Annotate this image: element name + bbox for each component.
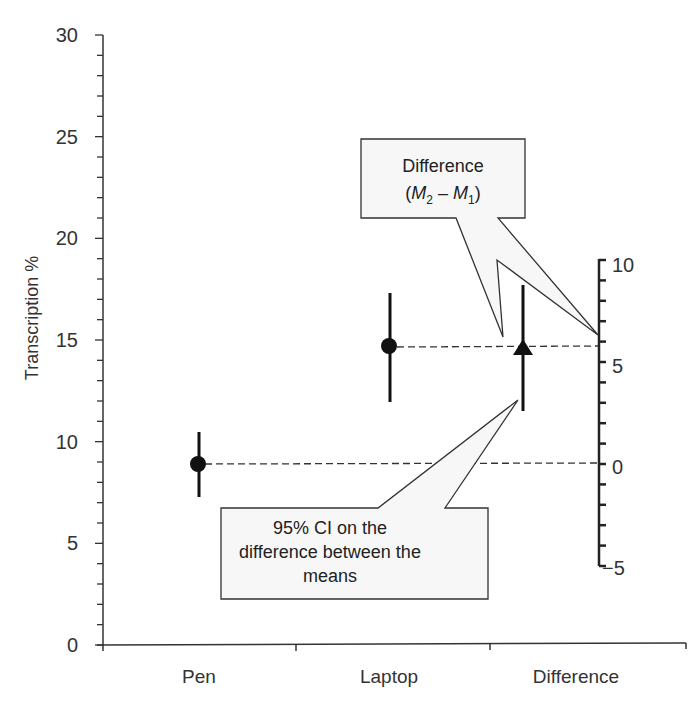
difference-mean-marker <box>513 339 533 355</box>
difference-callout-line1: Difference <box>402 156 484 176</box>
ci-callout: 95% CI on the difference between the mea… <box>221 400 518 599</box>
ci-callout-line1: 95% CI on the <box>273 518 387 538</box>
pen-reference-line <box>205 463 598 464</box>
category-label-laptop: Laptop <box>360 666 418 687</box>
right-tick-label: 0 <box>612 456 623 478</box>
x-axis: Pen Laptop Difference <box>97 643 686 687</box>
laptop-mean-marker <box>381 338 397 354</box>
right-tick-label: 5 <box>612 355 623 377</box>
left-y-ticks <box>95 35 103 645</box>
left-y-axis: 0 5 10 15 20 25 30 Transcription % <box>22 24 103 656</box>
left-tick-label: 5 <box>67 532 78 554</box>
left-tick-label: 25 <box>56 126 78 148</box>
right-tick-label: −5 <box>602 557 625 579</box>
left-tick-label: 15 <box>56 329 78 351</box>
left-tick-label: 0 <box>67 634 78 656</box>
right-tick-label: 10 <box>612 254 634 276</box>
y-axis-title: Transcription % <box>22 256 42 380</box>
left-tick-label: 30 <box>56 24 78 46</box>
estimation-chart: 0 5 10 15 20 25 30 Transcription % Pen L… <box>0 0 698 704</box>
right-difference-axis: 10 5 0 −5 <box>599 254 634 579</box>
category-label-pen: Pen <box>182 666 216 687</box>
left-tick-label: 20 <box>56 227 78 249</box>
difference-data-point <box>513 285 533 411</box>
laptop-data-point <box>381 293 397 402</box>
laptop-reference-line <box>397 346 598 347</box>
pen-mean-marker <box>190 456 206 472</box>
pen-data-point <box>190 432 206 497</box>
difference-callout: Difference (M2 – M1) <box>361 139 598 337</box>
ci-callout-line2: difference between the <box>239 542 421 562</box>
left-tick-label: 10 <box>56 431 78 453</box>
ci-callout-line3: means <box>303 566 357 586</box>
category-label-difference: Difference <box>533 666 619 687</box>
